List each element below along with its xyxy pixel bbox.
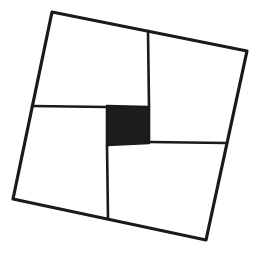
right-divider xyxy=(149,142,225,143)
bottom-divider xyxy=(107,145,108,218)
top-divider xyxy=(148,31,149,107)
center-black-square xyxy=(107,106,149,145)
diagram-svg xyxy=(0,0,260,256)
pinwheel-square-diagram xyxy=(0,0,260,256)
left-divider xyxy=(32,106,107,107)
bottom-right-rectangle xyxy=(107,143,225,240)
